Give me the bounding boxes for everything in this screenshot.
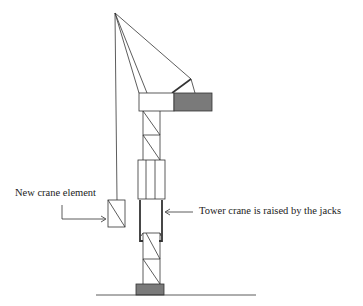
arrow-new-element [62,205,106,222]
jib-box [139,93,174,111]
counterweight [174,93,212,111]
label-tower-raised: Tower crane is raised by the jacks [199,206,341,217]
tie-cable-2 [115,13,147,93]
lower-tower-lattice [143,233,160,284]
label-new-crane-element: New crane element [15,188,96,199]
climbing-frame [138,160,165,199]
arrow-jacks [165,209,193,215]
foundation-base [136,284,164,295]
upper-tower-lattice [143,111,160,160]
tie-cable-1 [115,13,139,93]
jib-strut [172,79,191,93]
strut-right [191,79,195,93]
tie-cable-3 [115,13,191,79]
new-crane-element [108,200,125,227]
crane-drawing [0,0,363,306]
tower-crane-diagram: New crane element Tower crane is raised … [0,0,363,306]
hoist-cable [115,13,117,200]
